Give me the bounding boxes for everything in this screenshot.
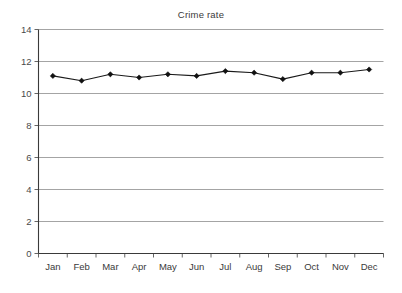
axis-frame [39,30,384,254]
y-axis-tick-label: 14 [21,24,32,35]
x-axis-tick-label: Apr [132,261,147,272]
y-axis-tick-labels: 02468101214 [21,24,32,259]
x-axis-tick-label: Oct [304,261,319,272]
x-axis-tick-label: May [159,261,177,272]
y-axis-tick-label: 2 [26,216,31,227]
data-point-marker [108,72,113,77]
y-axis-tick-label: 12 [21,56,32,67]
data-point-marker [79,78,84,83]
grid-lines [39,30,384,254]
data-point-marker [223,69,228,74]
x-axis-tick-label: Feb [73,261,89,272]
x-axis-tick-label: Jun [189,261,204,272]
x-axis-tick-label: Jan [45,261,60,272]
crime-rate-chart: Crime rate 02468101214 JanFebMarAprMayJu… [0,0,402,293]
series-polyline [53,70,369,81]
data-point-marker [50,73,55,78]
y-axis-ticks [35,30,39,254]
x-axis-tick-label: Sep [274,261,291,272]
y-axis-tick-label: 0 [26,248,31,259]
chart-plot-area: 02468101214 JanFebMarAprMayJunJulAugSepO… [0,0,402,293]
x-axis-tick-label: Dec [361,261,378,272]
x-axis-ticks [39,254,384,258]
x-axis-tick-label: Jul [219,261,231,272]
data-markers-crime-rate [50,67,371,83]
data-point-marker [194,73,199,78]
data-point-marker [338,70,343,75]
data-point-marker [309,70,314,75]
y-axis-tick-label: 8 [26,120,31,131]
data-point-marker [165,72,170,77]
x-axis-tick-label: Aug [246,261,263,272]
data-point-marker [367,67,372,72]
x-axis-tick-label: Mar [102,261,118,272]
data-point-marker [252,70,257,75]
y-axis-tick-label: 6 [26,152,31,163]
y-axis-tick-label: 10 [21,88,32,99]
x-axis-tick-label: Nov [332,261,349,272]
x-axis-tick-labels: JanFebMarAprMayJunJulAugSepOctNovDec [45,261,378,272]
data-point-marker [280,77,285,82]
y-axis-tick-label: 4 [26,184,31,195]
data-line-crime-rate [53,70,369,81]
data-point-marker [137,75,142,80]
